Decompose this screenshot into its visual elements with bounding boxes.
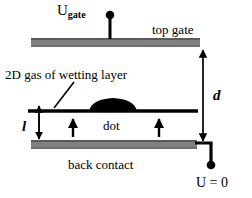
ground-terminal-dot-icon [207, 161, 216, 170]
distance-d-label: d [213, 88, 221, 103]
gate-voltage-symbol: U [57, 2, 68, 18]
gate-terminal-dot-icon [106, 11, 115, 20]
gate-voltage-subscript: gate [68, 9, 86, 20]
quantum-dot-shape [89, 98, 137, 111]
distance-l-label: l [22, 119, 26, 134]
dot-label: dot [103, 119, 120, 132]
leader-line-icon [54, 82, 74, 108]
top-gate-label: top gate [152, 23, 194, 36]
gate-voltage-label: Ugate [57, 3, 86, 20]
ground-voltage-label: U = 0 [196, 176, 228, 190]
back-contact-electrode [31, 140, 197, 149]
back-contact-label: back contact [68, 158, 133, 171]
semiconductor-quantum-dot-diagram: Ugate top gate 2D gas of wetting layer d… [0, 0, 252, 198]
top-gate-electrode [31, 38, 200, 47]
wetting-layer-label: 2D gas of wetting layer [5, 68, 127, 81]
